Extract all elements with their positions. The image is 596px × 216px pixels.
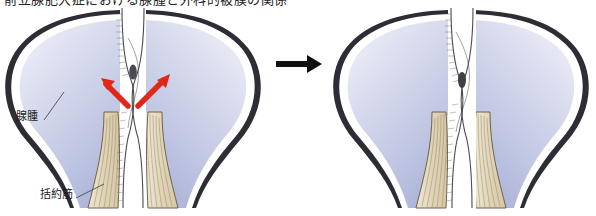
lesion-nodule (458, 72, 466, 88)
clipped-caption-text: 前立腺肥大症における腺腫と外科的被膜の関係 (4, 0, 288, 8)
diagram-panel-after (330, 8, 596, 216)
transition-arrow (276, 52, 324, 78)
label-adenoma: 腺腫 (16, 111, 38, 123)
label-sphincter: 括約筋 (40, 189, 73, 201)
lesion-nodule (129, 65, 137, 80)
central-canal (445, 8, 476, 208)
figure-canvas: 前立腺肥大症における腺腫と外科的被膜の関係 (0, 0, 596, 216)
central-canal (116, 8, 146, 208)
diagram-panel-before (0, 8, 266, 216)
